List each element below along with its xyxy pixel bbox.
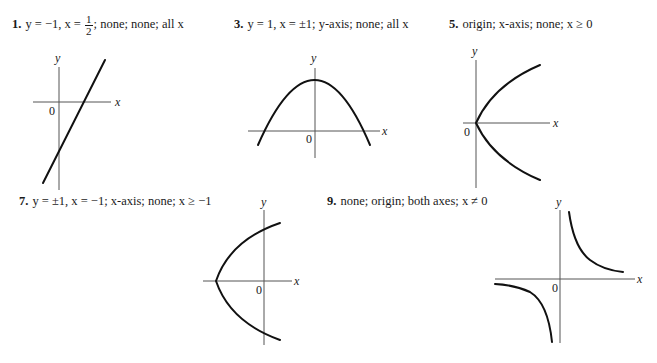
y-axis-label: y [471, 44, 478, 58]
origin-label: 0 [49, 104, 55, 118]
hyperbola-branch-lower [495, 284, 552, 342]
y-axis-label: y [260, 195, 267, 209]
x-axis-label: x [114, 95, 121, 109]
hyperbola-branch-upper [569, 212, 623, 272]
origin-label: 0 [306, 132, 312, 146]
line-curve [43, 60, 105, 183]
y-axis-label: y [54, 51, 61, 65]
graph-9: y x 0 [495, 195, 643, 343]
graph-3: y x 0 [248, 51, 388, 158]
graph-5: y x 0 [463, 44, 559, 188]
graph-1: y x 0 [33, 51, 121, 190]
graph-7: y x 0 [203, 195, 300, 345]
x-axis-label: x [293, 274, 300, 288]
x-axis-label: x [381, 124, 388, 138]
origin-label: 0 [256, 283, 262, 297]
y-axis-label: y [310, 51, 317, 65]
graphs-canvas: y x 0 y x 0 y x 0 y x 0 y x 0 [0, 0, 657, 363]
origin-label: 0 [552, 281, 558, 295]
x-axis-label: x [552, 116, 559, 130]
x-axis-label: x [636, 272, 643, 286]
parabola-curve [258, 80, 370, 145]
origin-label: 0 [464, 125, 470, 139]
y-axis-label: y [555, 195, 562, 209]
